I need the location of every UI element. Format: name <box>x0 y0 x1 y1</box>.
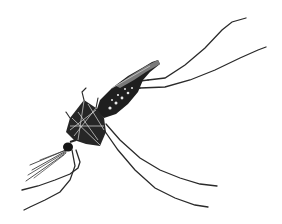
mosquito-illustration: Mosquito illustration <box>0 0 282 224</box>
thorax <box>66 88 106 146</box>
head <box>63 140 76 152</box>
antennae <box>26 150 66 181</box>
mosquito-drawing <box>0 0 282 224</box>
hind-legs <box>132 18 266 90</box>
middle-legs <box>104 124 217 207</box>
abdomen <box>96 60 160 118</box>
